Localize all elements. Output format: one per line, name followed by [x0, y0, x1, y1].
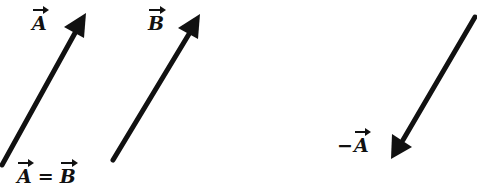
minus-sign: − [337, 134, 353, 156]
label-negative-a: −A [337, 134, 369, 156]
vector-a-symbol: A [32, 12, 47, 34]
vector-b-symbol: B [148, 12, 164, 34]
neg-a-symbol: A [354, 134, 369, 156]
vector-a-shaft [2, 33, 75, 165]
equals-sign: = [38, 165, 54, 187]
vector-neg-a-shaft [403, 17, 475, 140]
label-equality: A=B [17, 165, 76, 187]
eq-left-symbol: A [17, 165, 32, 187]
label-vector-a: A [32, 12, 47, 34]
vector-b-shaft [113, 34, 189, 160]
label-vector-b: B [148, 12, 164, 34]
eq-right-symbol: B [60, 165, 76, 187]
